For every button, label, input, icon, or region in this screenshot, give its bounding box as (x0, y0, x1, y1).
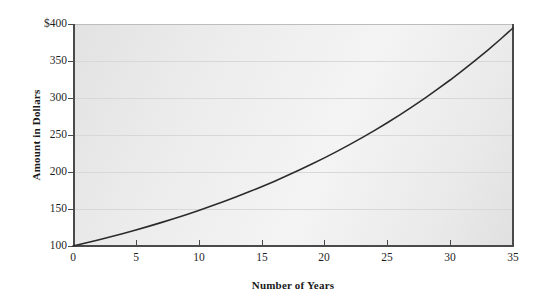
x-tick-mark (513, 240, 514, 246)
x-tick-label-text: 0 (53, 251, 93, 263)
x-tick-label: 5 (116, 251, 156, 266)
x-tick-label-text: 35 (493, 251, 533, 263)
x-tick-label: 25 (367, 251, 407, 266)
x-tick-label: 0 (53, 251, 93, 266)
x-tick-label-text: 5 (116, 251, 156, 263)
x-tick-label-text: 25 (367, 251, 407, 263)
compound-interest-chart: 100150200250300350$400 05101520253035 Am… (0, 0, 537, 303)
x-tick-label: 15 (242, 251, 282, 266)
x-tick-label: 35 (493, 251, 533, 266)
x-tick-label-text: 15 (242, 251, 282, 263)
x-axis-title: Number of Years (73, 279, 513, 291)
curve-path (73, 28, 513, 246)
y-axis-title: Amount in Dollars (24, 24, 48, 246)
x-tick-label-text: 30 (430, 251, 470, 263)
x-tick-label: 30 (430, 251, 470, 266)
x-tick-label: 10 (179, 251, 219, 266)
x-tick-label-text: 20 (304, 251, 344, 263)
x-tick-label-text: 10 (179, 251, 219, 263)
data-curve (73, 24, 513, 246)
x-tick-label: 20 (304, 251, 344, 266)
